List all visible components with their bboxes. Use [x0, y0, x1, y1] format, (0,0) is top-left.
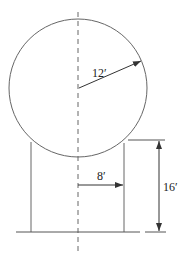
sphere-radius-label: 12′ [92, 66, 107, 80]
diagram-canvas: 16′ 8′ 12′ [0, 0, 187, 255]
sphere-radius-arrow [79, 61, 141, 88]
diagram-svg: 16′ 8′ 12′ [0, 0, 187, 255]
cylinder-radius-label: 8′ [97, 169, 106, 183]
cylinder-height-label: 16′ [163, 180, 178, 194]
